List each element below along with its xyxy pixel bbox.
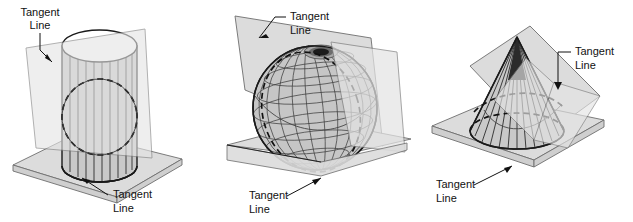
- label-text-line1: Tangent: [436, 178, 475, 190]
- cone-diagram: Tangent Line Tangent Line: [422, 0, 633, 222]
- label-text-line2: Line: [113, 202, 134, 214]
- label-text-line1: Tangent: [20, 6, 59, 18]
- label-text-line2: Line: [30, 19, 51, 31]
- label-text-line2: Line: [436, 192, 457, 204]
- panel-cylinder: Tangent Line Tangent Line: [0, 0, 211, 222]
- sphere-bottom-leader: [287, 178, 321, 196]
- cylinder-diagram: Tangent Line Tangent Line: [0, 0, 211, 222]
- panel-sphere: Tangent Line Tangent Line: [211, 0, 422, 222]
- cylinder-vertical-plane: [26, 29, 152, 158]
- sphere-bottom-label: Tangent Line: [249, 189, 288, 215]
- cylinder-top-label: Tangent Line: [20, 6, 59, 31]
- cone-bottom-label: Tangent Line: [436, 178, 475, 204]
- sphere-diagram: Tangent Line Tangent Line: [211, 0, 422, 222]
- label-text-line1: Tangent: [249, 189, 288, 201]
- tangent-planes-figure: Tangent Line Tangent Line: [0, 0, 633, 222]
- label-text-line1: Tangent: [290, 10, 329, 22]
- cone-bottom-leader: [474, 166, 512, 185]
- label-text-line2: Line: [290, 24, 311, 36]
- cone-top-label: Tangent Line: [575, 45, 614, 71]
- label-text-line1: Tangent: [113, 188, 152, 200]
- label-text-line2: Line: [575, 59, 596, 71]
- panel-cone: Tangent Line Tangent Line: [422, 0, 633, 222]
- label-text-line1: Tangent: [575, 45, 614, 57]
- label-text-line2: Line: [249, 203, 270, 215]
